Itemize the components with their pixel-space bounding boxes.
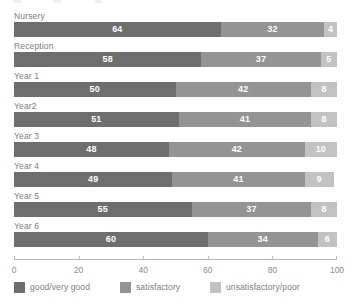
segment-value-label: 37 [246,205,256,214]
category-label: Reception [14,41,337,52]
segment-value-label: 32 [267,25,277,34]
bar-segment-2: 37 [192,202,312,217]
legend-item[interactable]: good/very good [14,282,90,293]
category-label: Year 3 [14,131,337,142]
segment-value-label: 50 [90,85,100,94]
x-axis-tick-label: 80 [268,265,277,275]
stacked-bar: 55378 [14,202,337,217]
category-label: Year 4 [14,161,337,172]
x-axis-tick-label: 60 [203,265,212,275]
bar-segment-2: 42 [169,142,305,157]
stacked-bar: 484210 [14,142,337,157]
x-axis-tick [143,256,144,260]
legend-label: satisfactory [136,282,180,293]
segment-value-label: 42 [238,85,248,94]
x-axis-tick-label: 100 [330,265,344,275]
category-label: Year 5 [14,191,337,202]
stacked-bar: 64324 [14,22,337,37]
stacked-bar: 58375 [14,52,337,67]
bar-segment-2: 41 [172,172,304,187]
x-axis-tick-label: 20 [74,265,83,275]
segment-value-label: 41 [233,175,243,184]
segment-value-label: 58 [102,55,112,64]
segment-value-label: 8 [321,205,326,214]
bar-segment-3: 6 [318,232,337,247]
segment-value-label: 34 [257,235,267,244]
bar-segment-2: 42 [176,82,312,97]
category-label: Year2 [14,101,337,112]
legend-swatch-icon [210,282,221,293]
bar-segment-1: 55 [14,202,192,217]
bar-segment-2: 34 [208,232,318,247]
x-axis-tick [208,256,209,260]
segment-value-label: 37 [256,55,266,64]
x-axis-tick-label: 40 [138,265,147,275]
segment-value-label: 60 [106,235,116,244]
clipped-header-row [14,0,337,4]
bar-segment-3: 9 [305,172,334,187]
stacked-bar: 50428 [14,82,337,97]
stacked-bar: 51418 [14,112,337,127]
chart-row: Reception58375 [14,41,337,71]
category-label: Year 6 [14,221,337,232]
x-axis-tick [79,256,80,260]
category-label: Nursery [14,11,337,22]
segment-value-label: 48 [86,145,96,154]
bar-segment-1: 50 [14,82,176,97]
legend-swatch-icon [14,282,25,293]
segment-value-label: 55 [98,205,108,214]
clipped-swatch-1 [14,0,24,3]
x-axis-tick [272,256,273,260]
x-axis-tick [14,256,15,260]
bar-segment-1: 48 [14,142,169,157]
chart-row: Nursery64324 [14,11,337,41]
bar-segment-3: 8 [311,82,337,97]
segment-value-label: 42 [232,145,242,154]
bar-segment-2: 41 [179,112,311,127]
segment-value-label: 6 [325,235,330,244]
segment-value-label: 5 [326,55,331,64]
x-axis-tick-label: 0 [12,265,17,275]
legend-label: unsatisfactory/poor [226,282,300,293]
segment-value-label: 41 [240,115,250,124]
bar-segment-2: 32 [221,22,324,37]
bar-segment-1: 58 [14,52,201,67]
segment-value-label: 10 [316,145,326,154]
segment-value-label: 8 [321,85,326,94]
segment-value-label: 49 [88,175,98,184]
bar-segment-1: 49 [14,172,172,187]
segment-value-label: 8 [321,115,326,124]
chart-row: Year 3484210 [14,131,337,161]
legend-label: good/very good [30,282,90,293]
chart-row: Year251418 [14,101,337,131]
bar-segment-3: 4 [324,22,337,37]
bar-segment-2: 37 [201,52,321,67]
legend-swatch-icon [120,282,131,293]
segment-value-label: 4 [328,25,333,34]
chart-row: Year 449419 [14,161,337,191]
x-axis-tick [336,256,337,260]
bar-segment-1: 51 [14,112,179,127]
chart-row: Year 555378 [14,191,337,221]
stacked-bar: 60346 [14,232,337,247]
clipped-swatch-2 [54,0,64,3]
legend-item[interactable]: satisfactory [120,282,180,293]
bar-segment-1: 60 [14,232,208,247]
bar-segment-3: 8 [311,112,337,127]
legend-item[interactable]: unsatisfactory/poor [210,282,300,293]
chart-legend: good/very goodsatisfactoryunsatisfactory… [14,282,337,296]
segment-value-label: 51 [91,115,101,124]
chart-row: Year 150428 [14,71,337,101]
bar-segment-3: 10 [305,142,337,157]
category-label: Year 1 [14,71,337,82]
chart-row: Year 660346 [14,221,337,251]
segment-value-label: 9 [317,175,322,184]
bar-segment-3: 5 [321,52,337,67]
stacked-bar-chart: Nursery64324Reception58375Year 150428Yea… [0,0,348,307]
segment-value-label: 64 [112,25,122,34]
plot-area: Nursery64324Reception58375Year 150428Yea… [14,11,337,251]
bar-segment-1: 64 [14,22,221,37]
x-axis-line: 020406080100 [14,259,337,260]
clipped-swatch-3 [95,0,105,3]
bar-segment-3: 8 [311,202,337,217]
